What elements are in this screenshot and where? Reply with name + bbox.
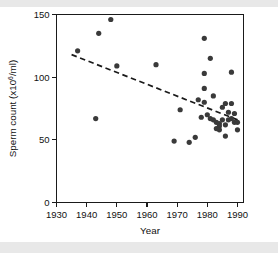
y-tick-label-150: 150 (34, 9, 50, 20)
data-point (223, 122, 228, 127)
data-point (108, 17, 113, 22)
data-point (229, 70, 234, 75)
data-point (235, 127, 240, 132)
y-axis-ticks (52, 15, 57, 203)
x-tick-label-1940: 1940 (76, 209, 97, 220)
x-tick-label-1990: 1990 (227, 209, 248, 220)
y-axis-tick-labels: 050100150 (34, 9, 50, 208)
x-tick-label-1970: 1970 (167, 209, 188, 220)
data-point (172, 138, 177, 143)
y-tick-label-50: 50 (39, 134, 50, 145)
y-tick-label-0: 0 (44, 197, 49, 208)
data-point (202, 100, 207, 105)
axis-frame (57, 15, 244, 203)
x-axis-tick-labels: 1930194019501960197019801990 (46, 209, 248, 220)
x-tick-label-1930: 1930 (46, 209, 67, 220)
x-axis-title: Year (140, 225, 161, 236)
data-point (202, 36, 207, 41)
data-point (75, 48, 80, 53)
data-point (178, 107, 183, 112)
data-point (223, 133, 228, 138)
data-point (226, 110, 231, 115)
data-point (193, 135, 198, 140)
data-point (199, 115, 204, 120)
data-point (202, 86, 207, 91)
data-point (93, 116, 98, 121)
y-tick-label-100: 100 (34, 72, 50, 83)
data-point (196, 97, 201, 102)
data-point (229, 101, 234, 106)
data-point (217, 127, 222, 132)
data-point (96, 31, 101, 36)
data-point (187, 140, 192, 145)
scatter-chart-figure: 050100150 1930194019501960197019801990 Y… (0, 0, 278, 253)
data-point (208, 56, 213, 61)
data-point (232, 111, 237, 116)
x-axis-ticks (57, 203, 238, 208)
data-point (153, 62, 158, 67)
data-point (235, 120, 240, 125)
x-tick-label-1980: 1980 (197, 209, 218, 220)
data-point (223, 101, 228, 106)
data-point (220, 117, 225, 122)
data-point (114, 63, 119, 68)
y-axis-title: Sperm count (x106/ml) (7, 60, 18, 157)
data-point (211, 93, 216, 98)
x-tick-label-1950: 1950 (106, 209, 127, 220)
data-point (208, 116, 213, 121)
plot-area: 050100150 1930194019501960197019801990 Y… (0, 0, 278, 253)
data-points-group (75, 17, 240, 145)
data-point (202, 71, 207, 76)
x-tick-label-1960: 1960 (136, 209, 157, 220)
